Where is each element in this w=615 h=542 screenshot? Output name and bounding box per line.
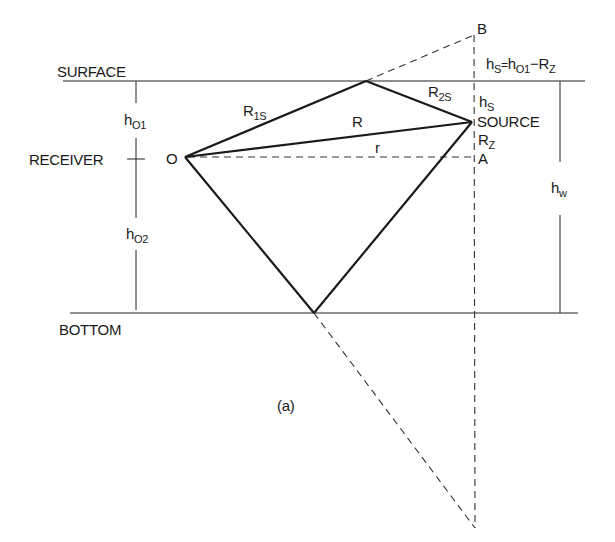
image-ray-b-dashed <box>366 35 474 81</box>
hw-sub: w <box>559 187 567 199</box>
h02-main: h <box>126 225 134 242</box>
ray-geometry-diagram <box>0 0 615 542</box>
eq-equals: = <box>501 58 508 72</box>
eq-rhs1-main: h <box>508 55 516 72</box>
h02-label: hO2 <box>126 226 148 241</box>
h01-main: h <box>124 111 132 128</box>
figure-caption: (a) <box>277 398 294 413</box>
r2s-sub: 2S <box>439 91 452 103</box>
eq-lhs-sub: S <box>494 63 501 75</box>
h01-sub: O1 <box>132 119 146 131</box>
r-direct-label: R <box>352 114 363 129</box>
r1s-label: R1S <box>243 103 266 118</box>
hw-label: hw <box>551 180 567 195</box>
surface-label: SURFACE <box>57 64 126 79</box>
eq-lhs-main: h <box>486 55 494 72</box>
ray-bottom-up <box>314 122 472 313</box>
rz-main: R <box>478 131 489 148</box>
hs-sub: S <box>487 101 494 113</box>
rz-label: RZ <box>478 132 495 147</box>
ray-bottom-down <box>185 157 314 313</box>
hs-label: hS <box>479 94 494 109</box>
image-ray-bottom-dashed <box>314 313 475 528</box>
rz-sub: Z <box>489 139 495 151</box>
r2s-label: R2S <box>428 84 451 99</box>
hs-equation: hS=hO1−RZ <box>486 56 555 71</box>
eq-rhs2-sub: Z <box>549 63 555 75</box>
h01-label: hO1 <box>124 112 146 127</box>
ray-r2s <box>366 81 472 122</box>
receiver-point-label: O <box>166 151 177 166</box>
point-b-label: B <box>477 21 487 36</box>
bottom-label: BOTTOM <box>59 322 121 337</box>
eq-rhs2-main: R <box>538 55 549 72</box>
h02-sub: O2 <box>134 233 148 245</box>
r1s-sub: 1S <box>254 110 267 122</box>
r2s-main: R <box>428 83 439 100</box>
receiver-label: RECEIVER <box>29 152 103 167</box>
hw-main: h <box>551 179 559 196</box>
eq-rhs1-sub: O1 <box>516 63 530 75</box>
point-a-label: A <box>478 151 488 166</box>
source-vertical-dashed <box>474 35 475 528</box>
source-label: SOURCE <box>477 114 539 129</box>
hs-main: h <box>479 93 487 110</box>
r1s-main: R <box>243 102 254 119</box>
r-horizontal-label: r <box>375 140 380 155</box>
